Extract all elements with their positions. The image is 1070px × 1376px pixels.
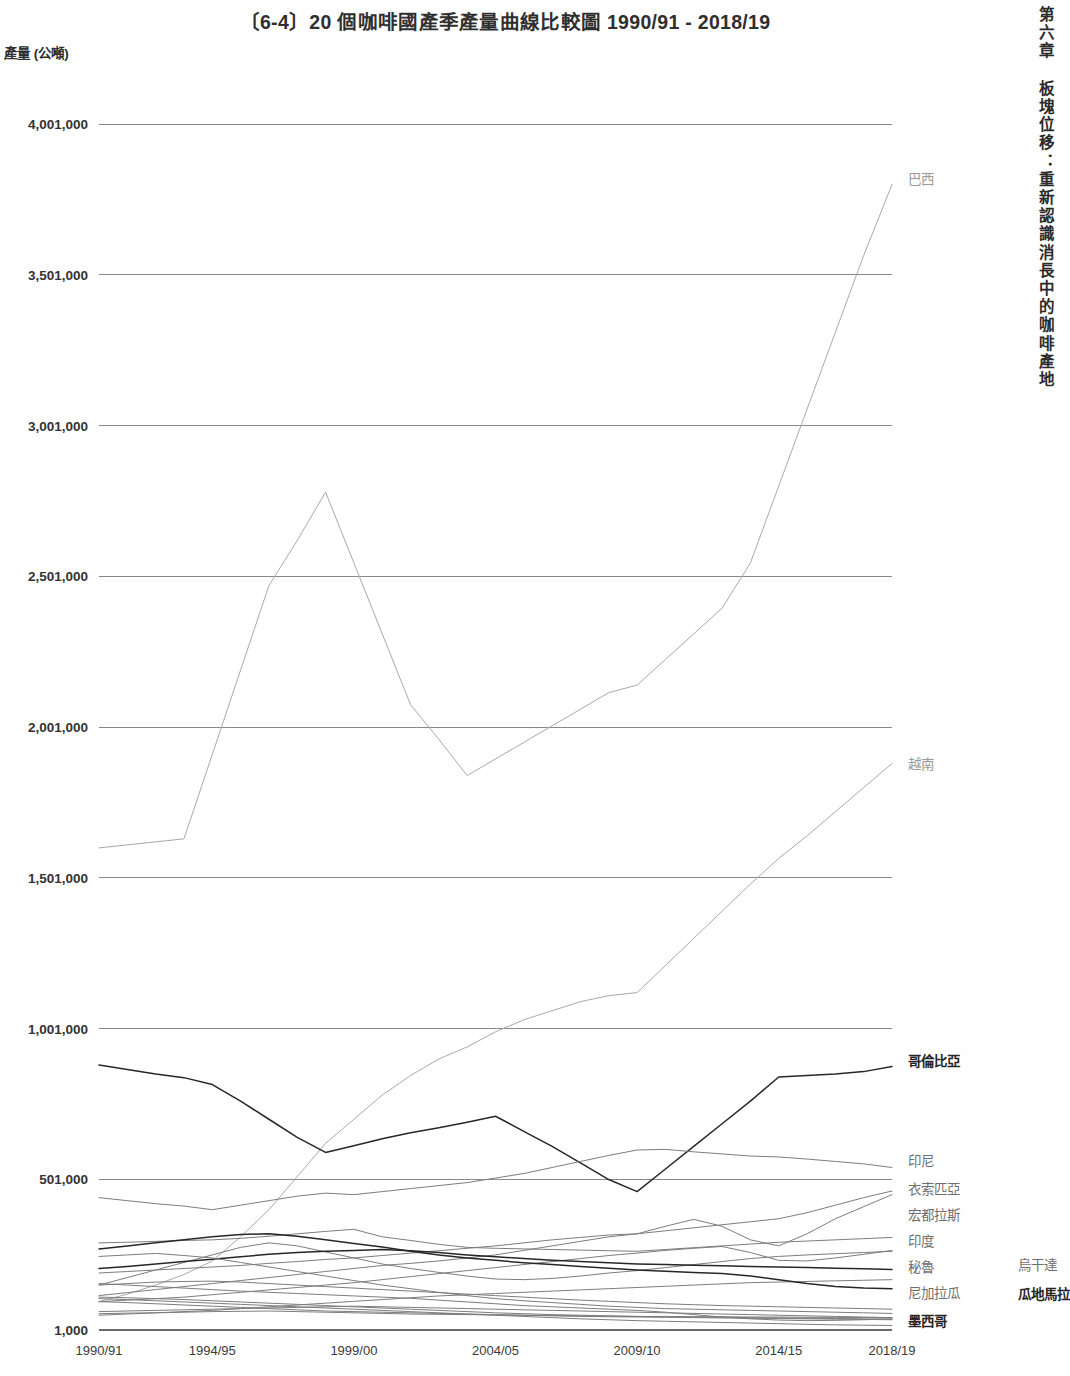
series-label: 印度 xyxy=(908,1235,934,1249)
y-tick-label: 2,501,000 xyxy=(0,569,88,584)
y-axis-title: 產量 (公噸) xyxy=(4,42,69,62)
y-tick-label: 3,501,000 xyxy=(0,267,88,282)
series-line xyxy=(99,1149,892,1209)
x-tick-label: 1994/95 xyxy=(189,1343,236,1358)
x-tick-label: 2014/15 xyxy=(755,1343,802,1358)
series-label: 衣索匹亞 xyxy=(908,1183,960,1197)
series-label: 巴西 xyxy=(908,173,934,187)
x-tick-label: 2009/10 xyxy=(614,1343,661,1358)
series-line xyxy=(99,185,892,848)
series-label: 秘魯 xyxy=(908,1261,934,1275)
series-label: 烏干達 xyxy=(1018,1259,1057,1273)
x-tick-label: 2018/19 xyxy=(869,1343,916,1358)
series-line xyxy=(99,1299,892,1326)
plot-area xyxy=(99,124,892,1330)
x-tick-label: 2004/05 xyxy=(472,1343,519,1358)
series-line xyxy=(99,1065,892,1192)
series-label: 越南 xyxy=(908,758,934,772)
series-line xyxy=(99,1229,892,1251)
y-tick-label: 3,001,000 xyxy=(0,418,88,433)
y-tick-label: 1,001,000 xyxy=(0,1021,88,1036)
series-label: 印尼 xyxy=(908,1155,934,1169)
y-tick-label: 1,501,000 xyxy=(0,870,88,885)
series-label: 墨西哥 xyxy=(908,1315,947,1329)
series-lines xyxy=(99,124,892,1330)
series-line xyxy=(99,1281,892,1309)
x-tick-label: 1990/91 xyxy=(76,1343,123,1358)
y-tick-label: 501,000 xyxy=(0,1172,88,1187)
y-tick-label: 2,001,000 xyxy=(0,720,88,735)
series-line xyxy=(99,1195,892,1296)
series-line xyxy=(99,1297,892,1319)
y-tick-label: 1,000 xyxy=(0,1323,88,1338)
series-label: 尼加拉瓜 xyxy=(908,1287,960,1301)
series-line xyxy=(99,763,892,1301)
series-line xyxy=(99,1280,892,1316)
series-line xyxy=(99,1234,892,1289)
series-label: 哥倫比亞 xyxy=(908,1055,960,1069)
series-label: 宏都拉斯 xyxy=(908,1209,960,1223)
chart-page: 〔6-4〕20 個咖啡國產季產量曲線比較圖 1990/91 - 2018/19 … xyxy=(0,0,1070,1376)
series-label: 瓜地馬拉 xyxy=(1018,1288,1070,1302)
x-tick-label: 1999/00 xyxy=(330,1343,377,1358)
y-tick-label: 4,001,000 xyxy=(0,117,88,132)
running-head: 第六章 板塊位移：重新認識消長中的咖啡產地 xyxy=(1028,6,1062,406)
chart-title: 〔6-4〕20 個咖啡國產季產量曲線比較圖 1990/91 - 2018/19 xyxy=(0,6,1010,35)
